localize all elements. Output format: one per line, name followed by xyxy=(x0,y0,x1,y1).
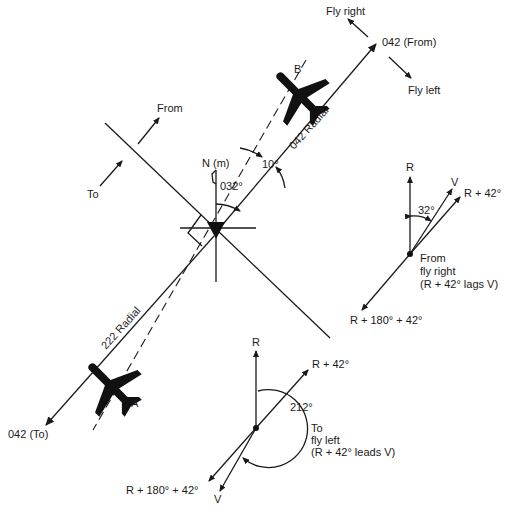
from-sector-label: From xyxy=(157,102,183,114)
track-032-dashed-line xyxy=(93,60,306,430)
vor-radial-diagram: 032° N (m) 10° 042 Radial 222 Radial 042… xyxy=(0,0,511,514)
to-vector-diagram: R R + 42° 212° R + 180° + 42° V To fly l… xyxy=(126,336,395,505)
to-r42-label: R + 42° xyxy=(312,358,349,370)
from-note-line2: fly right xyxy=(420,265,455,277)
radial-222-line xyxy=(46,236,214,425)
north-label: N (m) xyxy=(202,157,230,169)
fly-right-arrow xyxy=(348,19,368,37)
to-origin-dot xyxy=(253,425,259,431)
from-vector-diagram: R V R + 42° 32° R + 180° + 42° From fly … xyxy=(350,161,501,326)
from-v-vector xyxy=(410,189,452,254)
from-angle-label: 32° xyxy=(418,204,435,216)
from-note-line3: (R + 42° lags V) xyxy=(420,278,498,290)
aircraft-b-label: B xyxy=(294,63,301,75)
to-recip-vector xyxy=(209,428,256,481)
to-angle-label: 212° xyxy=(290,401,313,413)
to-sector-label: To xyxy=(87,188,99,200)
to-v-label: V xyxy=(214,493,222,505)
aircraft-a-icon xyxy=(68,343,154,429)
from-r-label: R xyxy=(406,161,414,173)
bearing-032-label: 032° xyxy=(220,180,243,192)
right-angle-marker xyxy=(188,215,202,246)
offset-arc-bottom xyxy=(276,167,285,188)
from-r42-label: R + 42° xyxy=(464,187,501,199)
aircraft-a-label: A xyxy=(131,397,139,409)
to-v-vector xyxy=(220,428,256,491)
from-v-label: V xyxy=(451,176,459,188)
vor-station-icon xyxy=(207,222,225,239)
from-origin-dot xyxy=(407,251,413,257)
fly-left-label: Fly left xyxy=(408,84,440,96)
from-recip-vector xyxy=(362,254,410,310)
offset-arc-top xyxy=(240,148,262,157)
to-note-line3: (R + 42° leads V) xyxy=(311,446,395,458)
from-sector-arrow xyxy=(138,118,159,144)
fly-left-arrow xyxy=(389,57,411,78)
to-r42-vector xyxy=(256,370,308,428)
to-sector-arrow xyxy=(100,161,122,186)
radial-222-label: 222 Radial xyxy=(99,304,143,351)
from-recip-label: R + 180° + 42° xyxy=(350,314,422,326)
to-recip-label: R + 180° + 42° xyxy=(126,484,198,496)
to-note-line1: To xyxy=(311,422,323,434)
to-end-label: 042 (To) xyxy=(8,428,48,440)
fly-right-label: Fly right xyxy=(326,5,365,17)
to-note-line2: fly left xyxy=(311,434,340,446)
from-angle-arc xyxy=(411,216,431,221)
from-end-label: 042 (From) xyxy=(382,36,436,48)
offset-10-label: 10° xyxy=(262,158,279,170)
from-note-line1: From xyxy=(420,252,446,264)
to-r-label: R xyxy=(252,336,260,348)
